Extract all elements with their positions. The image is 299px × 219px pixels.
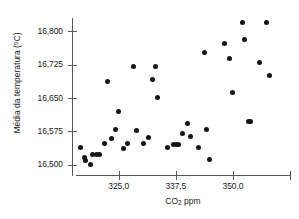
- y-axis-tick: [68, 65, 77, 66]
- data-point: [125, 141, 130, 146]
- y-axis-tick-label: 16,725: [38, 59, 63, 69]
- data-point: [116, 109, 121, 114]
- data-point: [267, 73, 272, 78]
- y-axis-tick-label: 16,575: [38, 126, 63, 136]
- x-axis-title: CO2 ppm: [76, 196, 290, 206]
- y-axis-tick-label: 16,500: [38, 159, 63, 169]
- data-point: [146, 135, 151, 140]
- data-point: [180, 131, 185, 136]
- data-point: [165, 145, 170, 150]
- x-axis-tick: [176, 171, 177, 180]
- data-point: [222, 41, 227, 46]
- y-axis-tick: [68, 131, 77, 132]
- data-point: [176, 142, 181, 147]
- data-point: [134, 128, 139, 133]
- data-point: [257, 60, 262, 65]
- y-axis-tick: [68, 165, 77, 166]
- data-point: [242, 37, 247, 42]
- data-point: [155, 95, 160, 100]
- y-axis-tick: [68, 31, 77, 32]
- data-point: [188, 134, 193, 139]
- x-axis-tick-label: 350,0: [223, 181, 244, 191]
- data-point: [204, 127, 209, 132]
- data-point: [248, 119, 253, 124]
- x-axis-title-main: CO: [165, 196, 178, 206]
- y-axis-title-main: Média da temperatura (: [12, 45, 22, 133]
- x-axis-title-rest: ppm: [182, 196, 201, 206]
- y-axis-tick-label: 16,800: [38, 26, 63, 36]
- data-point: [121, 146, 126, 151]
- data-point: [78, 145, 83, 150]
- y-axis-title: Média da temperatura (oC): [12, 18, 22, 148]
- data-point: [240, 20, 245, 25]
- data-point: [230, 90, 235, 95]
- x-axis-tick-label: 337,5: [165, 181, 186, 191]
- data-point: [102, 141, 107, 146]
- data-point: [227, 56, 232, 61]
- x-axis-tick: [233, 171, 234, 180]
- data-point: [105, 79, 110, 84]
- y-axis-title-rest: C): [12, 33, 22, 42]
- scatter-plot-figure: Média da temperatura (oC) CO2 ppm 16,500…: [0, 0, 299, 219]
- data-point: [153, 64, 158, 69]
- x-axis-line: [76, 175, 290, 176]
- data-point: [202, 50, 207, 55]
- x-axis-tick: [119, 171, 120, 180]
- data-point: [141, 141, 146, 146]
- y-axis-tick-label: 16,650: [38, 93, 63, 103]
- data-point: [131, 64, 136, 69]
- data-point: [97, 152, 102, 157]
- x-axis-tick: [290, 171, 291, 180]
- y-axis-line: [72, 18, 73, 176]
- data-point: [207, 157, 212, 162]
- y-axis-title-degree: o: [12, 42, 19, 46]
- data-point: [196, 145, 201, 150]
- plot-area: [73, 18, 290, 176]
- x-axis-tick-label: 325,0: [108, 181, 129, 191]
- data-point: [109, 136, 114, 141]
- data-point: [113, 127, 118, 132]
- data-point: [88, 162, 93, 167]
- data-point: [150, 77, 155, 82]
- data-point: [264, 20, 269, 25]
- data-point: [185, 121, 190, 126]
- y-axis-tick: [68, 98, 77, 99]
